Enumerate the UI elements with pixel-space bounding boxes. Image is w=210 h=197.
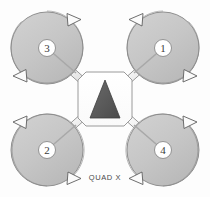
center-body[interactable] bbox=[78, 72, 132, 126]
rotor-3-label: 3 bbox=[44, 42, 50, 54]
quad-diagram-canvas: 3 1 2 bbox=[0, 0, 210, 197]
rotor-4-label: 4 bbox=[160, 144, 166, 156]
rotor-1[interactable]: 1 bbox=[127, 11, 199, 84]
rotor-3[interactable]: 3 bbox=[11, 11, 83, 84]
rotor-2[interactable]: 2 bbox=[11, 114, 84, 186]
quad-x-frame-diagram: 3 1 2 bbox=[0, 0, 210, 197]
diagram-caption: QUAD X bbox=[89, 173, 121, 182]
rotor-2-label: 2 bbox=[44, 144, 50, 156]
rotor-1-label: 1 bbox=[160, 42, 166, 54]
rotor-4[interactable]: 4 bbox=[126, 114, 199, 186]
